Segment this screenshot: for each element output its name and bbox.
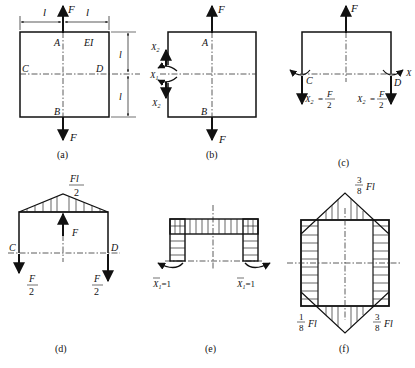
caption-d: (d): [55, 343, 67, 355]
svg-text:8: 8: [299, 323, 304, 333]
svg-text:X2: X2: [304, 94, 314, 105]
x2-top-label: X2: [150, 42, 160, 53]
panel-d: Fl 2 F C D F 2 F 2 (d): [8, 173, 120, 355]
moment-diagram: [19, 194, 108, 212]
force-label-top: F: [350, 2, 358, 14]
svg-text:1: 1: [299, 312, 304, 322]
x2-right-label: X2 = F 2: [356, 89, 387, 110]
moment-hatching: [170, 219, 258, 255]
moment-label-top: 3 8 Fl: [355, 175, 375, 196]
reaction-left-num: F: [28, 273, 36, 284]
panel-e: X1=1 X1=1 (e): [152, 205, 270, 355]
x2-bottom-label: X2: [151, 98, 161, 109]
svg-text:=: =: [318, 94, 323, 104]
point-B: B: [201, 106, 207, 117]
panel-b: F F A B X1 X2 X2 (b): [149, 3, 256, 161]
unit-moment-left-label: X1=1: [152, 278, 171, 290]
moment-label-bottom-left: 1 8 Fl: [297, 312, 317, 333]
caption-b: (b): [206, 149, 218, 161]
moment-label-bottom-right: 3 8 Fl: [373, 312, 393, 333]
moment-x1-upper-icon: [158, 66, 177, 71]
force-label-top: F: [67, 3, 75, 15]
svg-text:Fl: Fl: [365, 181, 375, 192]
unit-moment-right-icon: [245, 263, 270, 268]
force-label-top: F: [217, 3, 225, 15]
half-frame: [302, 32, 391, 74]
force-label-bottom: F: [218, 133, 226, 145]
svg-text:3: 3: [357, 175, 362, 185]
point-C: C: [306, 75, 313, 86]
reaction-right-den: 2: [94, 286, 99, 297]
caption-f: (f): [339, 343, 349, 355]
moment-band-beam: [170, 219, 258, 234]
point-D: D: [95, 63, 104, 74]
frame-square: [20, 32, 109, 117]
svg-text:2: 2: [379, 100, 384, 110]
x1-label-right: X: [405, 68, 412, 78]
force-label-bottom: F: [69, 131, 77, 143]
peak-moment-num: Fl: [69, 173, 79, 184]
point-D: D: [110, 242, 119, 253]
svg-text:3: 3: [375, 312, 380, 322]
reaction-right-num: F: [93, 273, 101, 284]
point-C: C: [9, 242, 16, 253]
panel-f: 3 8 Fl 1 8 Fl 3 8 Fl (f): [287, 175, 400, 355]
svg-text:F: F: [378, 89, 385, 99]
svg-text:F: F: [326, 89, 333, 99]
point-C: C: [22, 63, 29, 74]
svg-text:X1=1: X1=1: [152, 279, 171, 290]
point-A: A: [201, 37, 209, 48]
svg-text:8: 8: [357, 186, 362, 196]
caption-c: (c): [338, 157, 349, 169]
figure-stage: l l l l F F A B C D EI (a) F F A B X: [0, 0, 415, 368]
dim-label-left: l: [43, 6, 46, 18]
x1-label: X1: [149, 70, 159, 81]
panel-c: F X C D X2 = F 2 X2 = F 2 (c): [290, 2, 412, 169]
caption-a: (a): [57, 149, 68, 161]
point-D: D: [393, 77, 402, 88]
svg-text:=: =: [370, 94, 375, 104]
point-A: A: [53, 37, 61, 48]
svg-text:8: 8: [375, 323, 380, 333]
stiffness-label: EI: [83, 37, 94, 48]
point-B: B: [54, 106, 60, 117]
svg-text:Fl: Fl: [383, 318, 393, 329]
dim-label-lower: l: [119, 91, 122, 102]
dim-label-upper: l: [119, 49, 122, 60]
mechanics-figure: l l l l F F A B C D EI (a) F F A B X: [0, 0, 415, 368]
unit-moment-left-icon: [158, 263, 183, 268]
caption-e: (e): [205, 343, 216, 355]
svg-text:X2: X2: [356, 94, 366, 105]
svg-text:Fl: Fl: [307, 318, 317, 329]
reaction-left-den: 2: [29, 286, 34, 297]
panel-a: l l l l F F A B C D EI (a): [20, 3, 140, 161]
x2-left-label: X2 = F 2: [304, 89, 335, 110]
peak-moment-den: 2: [74, 187, 79, 198]
unit-moment-right-label: X1=1: [236, 278, 255, 290]
force-label-mid: F: [71, 227, 79, 238]
dim-label-right: l: [86, 6, 89, 18]
svg-text:X1=1: X1=1: [236, 279, 255, 290]
svg-text:2: 2: [327, 100, 332, 110]
moment-x1-lower-icon: [158, 77, 177, 82]
